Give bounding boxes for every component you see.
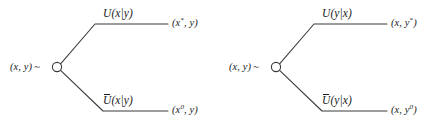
- root-label: (x, y)~: [229, 62, 259, 73]
- figure-canvas: (x, y)~ U(x|y) U(x|y) (x*, y) (x0, y) (x…: [0, 0, 438, 127]
- lower-outcome-label: (x, y0): [391, 105, 417, 116]
- lower-branch-label-base: U: [103, 95, 111, 107]
- upper-outcome-rest: ): [413, 17, 417, 28]
- upper-branch-line: [280, 24, 387, 64]
- upper-outcome-label: (x*, y): [172, 18, 198, 29]
- lower-branch-label-arg: (y|x): [330, 94, 352, 106]
- decision-tree-right: (x, y)~ U(y|x) U(y|x) (x, y*) (x, y0): [219, 0, 438, 127]
- upper-outcome-label: (x, y*): [391, 18, 417, 29]
- upper-branch-line: [61, 24, 168, 64]
- lower-branch-label: U(x|y): [103, 95, 133, 107]
- lower-outcome-rest: , y): [184, 104, 198, 115]
- upper-branch-label-arg: (y|x): [330, 7, 352, 19]
- upper-branch-label: U(x|y): [103, 8, 133, 20]
- lower-outcome-rest: ): [413, 104, 417, 115]
- upper-outcome-open: (x,: [391, 17, 405, 28]
- root-label-pair: (x, y): [229, 61, 251, 72]
- lower-outcome-label: (x0, y): [172, 105, 198, 116]
- lower-outcome-open: (x,: [391, 104, 405, 115]
- root-tilde: ~: [251, 61, 259, 72]
- lower-branch-label: U(y|x): [322, 95, 352, 107]
- lower-branch-label-base: U: [322, 95, 330, 107]
- upper-outcome-rest: , y): [184, 17, 198, 28]
- lower-branch-label-arg: (x|y): [111, 94, 133, 106]
- decision-tree-left: (x, y)~ U(x|y) U(x|y) (x*, y) (x0, y): [0, 0, 219, 127]
- root-label: (x, y)~: [10, 62, 40, 73]
- upper-branch-label: U(y|x): [322, 8, 352, 20]
- upper-branch-label-arg: (x|y): [111, 7, 133, 19]
- root-label-pair: (x, y): [10, 61, 32, 72]
- root-tilde: ~: [32, 61, 40, 72]
